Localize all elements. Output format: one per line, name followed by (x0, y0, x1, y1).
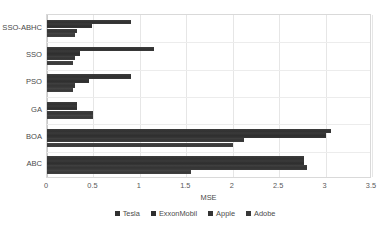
legend-item-exxonmobil[interactable]: ExxonMobil (151, 209, 197, 218)
legend-swatch-icon (151, 211, 156, 216)
category-label-sso: SSO (0, 50, 42, 59)
category-label-boa: BOA (0, 132, 42, 141)
x-axis-title: MSE (46, 193, 371, 202)
plot-area (46, 14, 371, 178)
category-label-abc: ABC (0, 159, 42, 168)
x-tick-label: 2.5 (273, 181, 283, 190)
gridline (186, 15, 187, 177)
legend-label: ExxonMobil (159, 209, 197, 218)
legend-label: Tesla (123, 209, 140, 218)
gridline (279, 15, 280, 177)
bar-chart: SSO-ABHCSSOPSOGABOAABC 00.511.522.533.5 … (0, 0, 390, 240)
category-separator (47, 70, 370, 71)
legend-swatch-icon (208, 211, 213, 216)
bar (47, 88, 73, 92)
legend-label: Apple (216, 209, 235, 218)
gridline (326, 15, 327, 177)
category-separator (47, 124, 370, 125)
bar (47, 33, 75, 37)
gridline (372, 15, 373, 177)
x-tick-label: 0.5 (87, 181, 97, 190)
x-tick-label: 1 (137, 181, 141, 190)
legend-label: Adobe (254, 209, 275, 218)
x-tick-label: 1.5 (180, 181, 190, 190)
x-tick-label: 0 (44, 181, 48, 190)
legend-swatch-icon (246, 211, 251, 216)
bar (47, 61, 73, 65)
legend-item-apple[interactable]: Apple (208, 209, 235, 218)
category-label-ga: GA (0, 105, 42, 114)
category-label-sso-abhc: SSO-ABHC (0, 23, 42, 32)
value-axis-baseline (47, 15, 48, 177)
category-separator (47, 42, 370, 43)
bar (47, 170, 191, 174)
legend-swatch-icon (115, 211, 120, 216)
category-separator (47, 97, 370, 98)
gridline (140, 15, 141, 177)
gridline (93, 15, 94, 177)
legend-item-adobe[interactable]: Adobe (246, 209, 275, 218)
x-tick-label: 2 (230, 181, 234, 190)
x-tick-label: 3.5 (366, 181, 376, 190)
gridline (233, 15, 234, 177)
category-separator (47, 152, 370, 153)
legend-item-tesla[interactable]: Tesla (115, 209, 140, 218)
x-tick-label: 3 (323, 181, 327, 190)
bar (47, 115, 93, 119)
category-label-pso: PSO (0, 77, 42, 86)
bar (47, 143, 233, 147)
chart-legend: TeslaExxonMobilAppleAdobe (0, 209, 390, 218)
